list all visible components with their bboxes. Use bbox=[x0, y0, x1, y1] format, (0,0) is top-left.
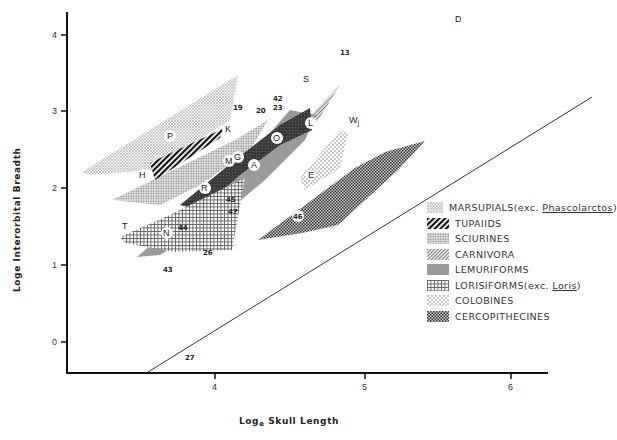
label-44: 44 bbox=[178, 224, 188, 232]
y-tick-label: 3 bbox=[52, 106, 57, 116]
swatch-tupaiids bbox=[427, 218, 449, 229]
label-19: 19 bbox=[233, 104, 243, 112]
legend-item-lemuriforms: LEMURIFORMS bbox=[427, 262, 617, 278]
swatch-lemuriforms bbox=[427, 264, 449, 275]
swatch-colobines bbox=[427, 295, 449, 306]
swatch-lorisiforms bbox=[427, 280, 449, 291]
y-tick-label: 0 bbox=[52, 337, 57, 347]
label-K: K bbox=[225, 124, 231, 134]
y-ticks: 4 3 2 1 0 bbox=[52, 30, 67, 347]
legend-item-marsupials: MARSUPIALS(exc. Phascolarctos) bbox=[427, 200, 617, 216]
y-axis-title: Loge Interorbital Breadth bbox=[12, 147, 22, 292]
x-tick-label: 6 bbox=[508, 382, 513, 392]
label-O: O bbox=[273, 133, 280, 143]
label-H: H bbox=[139, 170, 146, 180]
x-axis-title: Loge Skull Length bbox=[239, 416, 339, 428]
y-tick-label: 4 bbox=[52, 30, 57, 40]
label-47: 47 bbox=[228, 208, 238, 216]
label-46: 46 bbox=[293, 213, 303, 221]
label-45: 45 bbox=[226, 196, 236, 204]
label-T: T bbox=[122, 221, 128, 231]
label-P: P bbox=[167, 131, 173, 141]
swatch-cercopithecines bbox=[427, 311, 449, 322]
x-ticks: 4 5 6 bbox=[212, 373, 513, 392]
label-D: D bbox=[455, 14, 462, 24]
label-S: S bbox=[303, 74, 309, 84]
legend-item-lorisiforms: LORISIFORMS(exc. Loris) bbox=[427, 278, 617, 294]
legend-item-colobines: COLOBINES bbox=[427, 293, 617, 309]
x-tick-label: 4 bbox=[212, 382, 217, 392]
label-L: L bbox=[308, 118, 313, 128]
label-26: 26 bbox=[203, 249, 213, 257]
legend: MARSUPIALS(exc. Phascolarctos) TUPAIIDS … bbox=[427, 200, 617, 324]
label-27: 27 bbox=[185, 354, 195, 362]
label-Wj: Wj bbox=[349, 115, 360, 127]
label-23: 23 bbox=[273, 104, 283, 112]
label-E: E bbox=[308, 170, 314, 180]
label-13: 13 bbox=[340, 49, 350, 57]
swatch-carnivora bbox=[427, 249, 449, 260]
legend-item-sciurines: SCIURINES bbox=[427, 231, 617, 247]
legend-item-carnivora: CARNIVORA bbox=[427, 247, 617, 263]
label-A: A bbox=[251, 160, 257, 170]
label-42: 42 bbox=[273, 95, 283, 103]
legend-item-cercopithecines: CERCOPITHECINES bbox=[427, 309, 617, 325]
label-43: 43 bbox=[163, 266, 173, 274]
x-tick-label: 5 bbox=[362, 382, 367, 392]
label-M: M bbox=[225, 156, 233, 166]
legend-item-tupaiids: TUPAIIDS bbox=[427, 216, 617, 232]
label-20: 20 bbox=[256, 107, 266, 115]
label-R: R bbox=[201, 183, 208, 193]
y-tick-label: 1 bbox=[52, 260, 57, 270]
swatch-sciurines bbox=[427, 233, 449, 244]
y-tick-label: 2 bbox=[52, 183, 57, 193]
label-G: G bbox=[234, 152, 241, 162]
label-N: N bbox=[163, 228, 170, 238]
swatch-marsupials bbox=[427, 202, 443, 213]
